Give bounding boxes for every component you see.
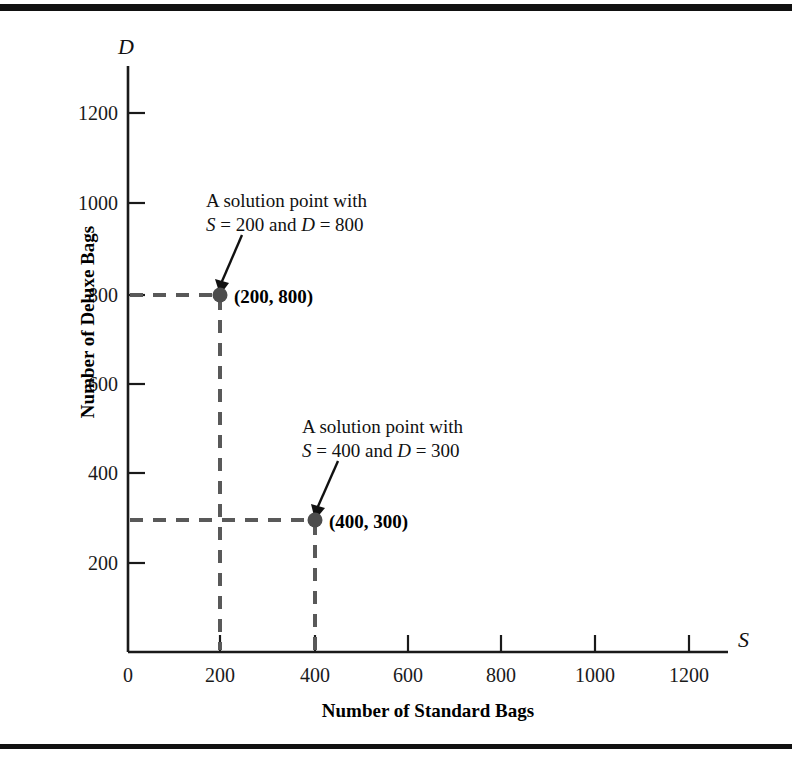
annotation-2-var-s: S	[302, 440, 312, 461]
y-axis-title: Number of Deluxe Bags	[77, 226, 98, 418]
x-tick-label-1200: 1200	[659, 665, 719, 685]
annotation-1: A solution point with S = 200 and D = 80…	[206, 189, 367, 238]
plot-canvas	[0, 11, 792, 744]
annotation-1-var-d: D	[301, 214, 315, 235]
point-label-400-300: (400, 300)	[329, 511, 408, 533]
y-axis-title-wrapper: Number of Deluxe Bags	[77, 192, 99, 452]
x-tick-label-1000: 1000	[565, 665, 625, 685]
y-tick-label-200: 200	[40, 553, 118, 573]
annotation-2-mid: = 400 and	[312, 440, 398, 461]
x-tick-label-400: 400	[285, 665, 345, 685]
guide-lines-point-2	[130, 520, 315, 650]
chart-figure: D S 1200 1000 800 600 400 200 0 200 400 …	[0, 11, 792, 744]
x-tick-label-600: 600	[378, 665, 438, 685]
annotation-1-var-s: S	[206, 214, 216, 235]
data-point-200-800[interactable]	[213, 288, 228, 303]
x-axis-ticks	[220, 635, 689, 652]
page-bottom-rule	[0, 744, 792, 749]
x-tick-label-800: 800	[471, 665, 531, 685]
y-tick-label-1200: 1200	[40, 103, 118, 123]
x-tick-label-200: 200	[190, 665, 250, 685]
x-axis-title: Number of Standard Bags	[228, 701, 628, 720]
annotation-1-line-2: S = 200 and D = 800	[206, 213, 367, 237]
data-point-400-300[interactable]	[308, 513, 323, 528]
x-tick-label-0: 0	[98, 665, 158, 685]
annotation-1-line-1: A solution point with	[206, 189, 367, 213]
page-top-rule	[0, 4, 792, 11]
y-axis-symbol: D	[118, 36, 134, 58]
annotation-2-var-d: D	[397, 440, 411, 461]
annotation-1-post: = 800	[315, 214, 364, 235]
y-axis-ticks	[128, 113, 145, 563]
y-tick-label-400: 400	[40, 463, 118, 483]
x-axis-symbol: S	[738, 629, 749, 651]
point-label-200-800: (200, 800)	[234, 286, 313, 308]
annotation-2-post: = 300	[411, 440, 460, 461]
annotation-2-line-2: S = 400 and D = 300	[302, 439, 463, 463]
annotation-1-mid: = 200 and	[216, 214, 302, 235]
annotation-2-line-1: A solution point with	[302, 415, 463, 439]
annotation-2: A solution point with S = 400 and D = 30…	[302, 415, 463, 464]
figure-page: D S 1200 1000 800 600 400 200 0 200 400 …	[0, 0, 792, 757]
